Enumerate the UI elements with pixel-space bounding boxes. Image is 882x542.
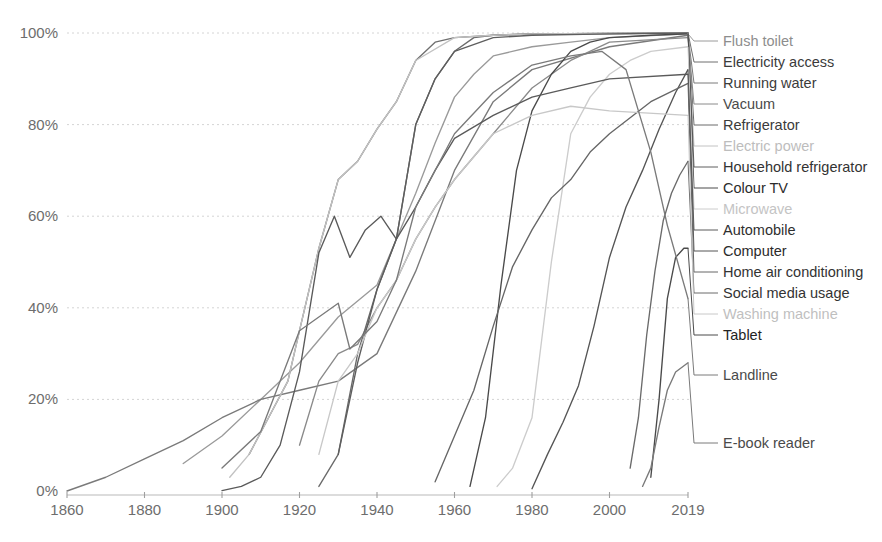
legend-label-household-refrigerator[interactable]: Household refrigerator bbox=[723, 159, 867, 175]
legend-label-e-book-reader[interactable]: E-book reader bbox=[723, 435, 815, 451]
leader-line-flush-toilet bbox=[688, 34, 718, 41]
series-line-washing-machine bbox=[319, 106, 688, 454]
legend-label-vacuum[interactable]: Vacuum bbox=[723, 96, 775, 112]
data-series-lines bbox=[67, 33, 688, 491]
legend-label-computer[interactable]: Computer bbox=[723, 243, 787, 259]
legend-label-home-air-conditioning[interactable]: Home air conditioning bbox=[723, 264, 863, 280]
legend-label-social-media-usage[interactable]: Social media usage bbox=[723, 285, 850, 301]
legend-labels: Flush toiletElectricity accessRunning wa… bbox=[723, 33, 867, 451]
x-tick-label: 1940 bbox=[360, 501, 393, 518]
legend-label-electric-power[interactable]: Electric power bbox=[723, 138, 814, 154]
x-tick-label: 1900 bbox=[205, 501, 238, 518]
series-line-colour-tv bbox=[470, 34, 688, 487]
y-tick-label: 40% bbox=[28, 299, 58, 316]
x-tick-label: 2019 bbox=[671, 501, 704, 518]
series-line-landline bbox=[222, 51, 688, 468]
series-line-running-water bbox=[67, 35, 688, 491]
x-tick-label: 1980 bbox=[515, 501, 548, 518]
x-tick-label: 2000 bbox=[593, 501, 626, 518]
series-line-electric-power bbox=[230, 33, 688, 477]
series-line-e-book-reader bbox=[643, 363, 688, 487]
y-tick-label: 100% bbox=[20, 24, 58, 41]
y-tick-label: 0% bbox=[36, 482, 58, 499]
legend-label-colour-tv[interactable]: Colour TV bbox=[723, 180, 788, 196]
series-line-electricity-access bbox=[249, 33, 688, 454]
legend-label-electricity-access[interactable]: Electricity access bbox=[723, 54, 834, 70]
series-line-refrigerator bbox=[319, 33, 688, 486]
x-axis-tick-labels: 186018801900192019401960198020002019 bbox=[50, 501, 704, 518]
legend-label-landline[interactable]: Landline bbox=[723, 367, 778, 383]
legend-label-washing-machine[interactable]: Washing machine bbox=[723, 306, 838, 322]
y-tick-label: 20% bbox=[28, 390, 58, 407]
y-axis-tick-labels: 0%20%40%60%80%100% bbox=[20, 24, 58, 499]
series-line-microwave bbox=[497, 47, 688, 487]
y-tick-label: 80% bbox=[28, 116, 58, 133]
legend-leader-lines bbox=[688, 33, 718, 443]
x-tick-label: 1860 bbox=[50, 501, 83, 518]
legend-label-refrigerator[interactable]: Refrigerator bbox=[723, 117, 800, 133]
legend-label-automobile[interactable]: Automobile bbox=[723, 222, 796, 238]
x-tick-label: 1880 bbox=[128, 501, 161, 518]
legend-label-running-water[interactable]: Running water bbox=[723, 75, 817, 91]
x-tick-label: 1960 bbox=[438, 501, 471, 518]
x-axis bbox=[67, 492, 688, 498]
series-line-vacuum bbox=[300, 38, 689, 446]
leader-line-electricity-access bbox=[688, 33, 718, 62]
legend-label-tablet[interactable]: Tablet bbox=[723, 327, 762, 343]
series-line-computer bbox=[532, 70, 688, 489]
legend-label-microwave[interactable]: Microwave bbox=[723, 201, 792, 217]
technology-adoption-line-chart: 0%20%40%60%80%100% 186018801900192019401… bbox=[0, 0, 882, 542]
series-line-automobile bbox=[222, 74, 688, 490]
series-line-household-refrigerator bbox=[338, 33, 688, 454]
legend-label-flush-toilet[interactable]: Flush toilet bbox=[723, 33, 793, 49]
series-line-social-media-usage bbox=[630, 161, 688, 468]
series-line-home-air-conditioning bbox=[435, 83, 688, 481]
y-tick-label: 60% bbox=[28, 207, 58, 224]
x-tick-label: 1920 bbox=[283, 501, 316, 518]
leader-line-running-water bbox=[688, 35, 718, 83]
chart-container: 0%20%40%60%80%100% 186018801900192019401… bbox=[0, 0, 882, 542]
